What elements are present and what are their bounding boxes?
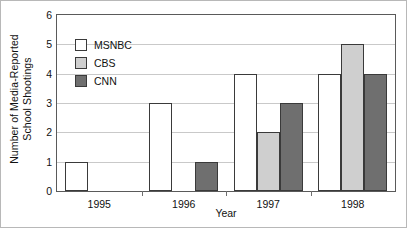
y-tick-label: 2 <box>46 126 52 138</box>
y-tick-label: 4 <box>46 68 52 80</box>
x-tick-mark <box>226 191 227 196</box>
y-tick-label: 1 <box>46 156 52 168</box>
plot-area: 0123456 1995199619971998 MSNBCCBSCNN <box>56 14 396 192</box>
bar-chart-figure: Number of Media-Reported School Shooting… <box>0 0 407 228</box>
bar-msnbc-1997 <box>234 74 257 191</box>
bar-cbs-1998 <box>341 44 364 191</box>
y-tick-label: 0 <box>46 185 52 197</box>
y-tick-label: 3 <box>46 97 52 109</box>
legend-label-cbs: CBS <box>94 57 116 69</box>
y-tick-label: 6 <box>46 9 52 21</box>
legend-item-msnbc: MSNBC <box>75 37 132 53</box>
legend-swatch-msnbc <box>75 39 87 51</box>
legend-swatch-cbs <box>75 57 87 69</box>
chart-legend: MSNBCCBSCNN <box>75 37 132 91</box>
bar-cnn-1998 <box>364 74 387 191</box>
x-tick-mark <box>142 191 143 196</box>
x-axis-title: Year <box>56 207 396 219</box>
legend-item-cnn: CNN <box>75 73 132 89</box>
bar-cnn-1996 <box>195 162 218 191</box>
legend-swatch-cnn <box>75 75 87 87</box>
bar-msnbc-1996 <box>149 103 172 191</box>
bar-msnbc-1995 <box>65 162 88 191</box>
y-axis-title: Number of Media-Reported School Shooting… <box>1 1 41 197</box>
y-tick-label: 5 <box>46 38 52 50</box>
bar-msnbc-1998 <box>318 74 341 191</box>
legend-item-cbs: CBS <box>75 55 132 71</box>
y-axis-title-line2: School Shootings <box>21 34 34 164</box>
bar-cbs-1997 <box>257 132 280 191</box>
bar-cnn-1997 <box>280 103 303 191</box>
legend-label-msnbc: MSNBC <box>94 39 132 51</box>
y-axis-title-line1: Number of Media-Reported <box>8 34 20 164</box>
x-tick-mark <box>311 191 312 196</box>
legend-label-cnn: CNN <box>94 75 117 87</box>
